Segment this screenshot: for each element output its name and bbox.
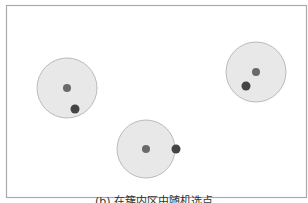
sampled-point-dot xyxy=(242,82,251,91)
cluster-3 xyxy=(226,42,286,102)
cluster-center-dot xyxy=(252,68,260,76)
cluster-1 xyxy=(37,58,97,118)
sampled-point-dot xyxy=(172,145,181,154)
cluster-center-dot xyxy=(63,84,71,92)
cluster-diagram xyxy=(0,0,308,203)
cluster-center-dot xyxy=(142,145,150,153)
figure-caption: (b) 在簇内区由随机选点 xyxy=(0,196,308,203)
sampled-point-dot xyxy=(71,105,80,114)
